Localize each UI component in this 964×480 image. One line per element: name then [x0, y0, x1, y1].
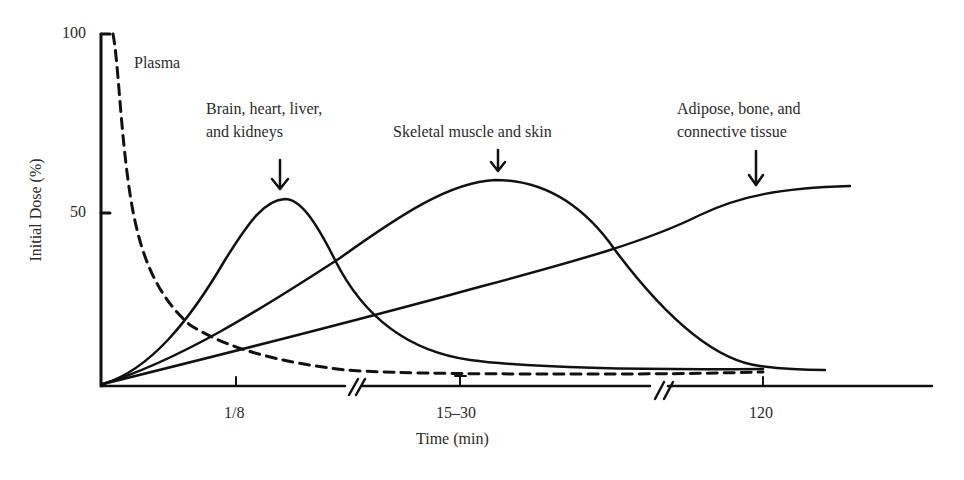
x-tick-label-1: 1/8	[224, 404, 244, 422]
y-axis-label: Initial Dose (%)	[27, 158, 45, 261]
x-axis-label: Time (min)	[416, 430, 489, 448]
axis-break-icon	[655, 382, 673, 399]
arrow-down-icon	[272, 160, 288, 189]
x-tick-label-3: 120	[749, 404, 773, 422]
annotation-adipose-line2: connective tissue	[677, 121, 787, 143]
series-adipose-bone-connective	[103, 186, 850, 384]
annotation-plasma: Plasma	[134, 52, 180, 74]
annotation-adipose-line1: Adipose, bone, and	[677, 98, 801, 120]
series-brain-heart-liver-kidneys	[103, 199, 763, 384]
annotation-brain-line1: Brain, heart, liver,	[206, 98, 322, 120]
annotation-skeletal: Skeletal muscle and skin	[393, 121, 552, 143]
y-tick-label-100: 100	[62, 24, 86, 42]
x-tick-label-2: 15–30	[436, 404, 476, 422]
arrow-down-icon	[491, 150, 505, 171]
y-tick-label-50: 50	[70, 203, 86, 221]
arrow-down-icon	[749, 151, 763, 185]
x-axis-tick-2	[455, 376, 466, 386]
series-plasma	[113, 34, 763, 374]
annotation-brain-line2: and kidneys	[206, 121, 283, 143]
